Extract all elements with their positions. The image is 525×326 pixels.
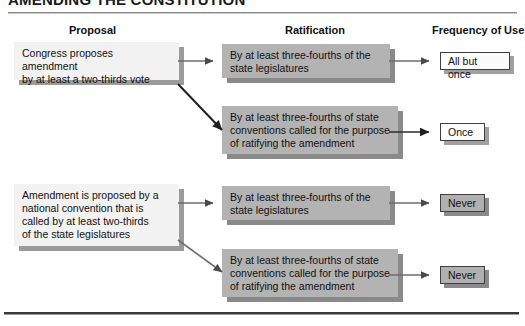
frequency-text-never-1: Never [440, 194, 485, 213]
column-header-frequency: Frequency of Use [432, 24, 524, 36]
ratification-text-legislatures-1: By at least three-fourths of the state l… [222, 44, 390, 79]
ratification-box-conventions-2: By at least three-fourths of state conve… [222, 249, 398, 297]
arrow-congress-to-conventions [178, 84, 222, 130]
proposal-text-congress: Congress proposes amendment by at least … [14, 42, 179, 90]
column-header-ratification: Ratification [285, 24, 345, 36]
ratification-box-legislatures-2: By at least three-fourths of the state l… [222, 186, 390, 220]
footer-divider-bottom [4, 312, 519, 315]
ratification-box-legislatures-1: By at least three-fourths of the state l… [222, 44, 390, 78]
frequency-text-once: Once [440, 123, 485, 142]
frequency-text-all-but-once: All but once [440, 52, 510, 84]
frequency-box-all-but-once: All but once [440, 52, 510, 70]
frequency-box-once: Once [440, 123, 485, 141]
frequency-box-never-2: Never [440, 266, 485, 284]
amendment-process-diagram: AMENDING THE CONSTITUTION Proposal Ratif… [0, 0, 525, 326]
proposal-text-national-convention: Amendment is proposed by a national conv… [14, 184, 179, 245]
header-divider-top [8, 12, 517, 14]
frequency-text-never-2: Never [440, 266, 485, 285]
frequency-box-never-1: Never [440, 194, 485, 212]
arrow-convention-to-conventions [178, 240, 222, 272]
proposal-box-national-convention: Amendment is proposed by a national conv… [14, 184, 179, 246]
ratification-text-legislatures-2: By at least three-fourths of the state l… [222, 186, 390, 221]
ratification-text-conventions-2: By at least three-fourths of state conve… [222, 249, 398, 297]
column-header-proposal: Proposal [69, 24, 116, 36]
ratification-box-conventions-1: By at least three-fourths of state conve… [222, 106, 398, 154]
proposal-box-congress: Congress proposes amendment by at least … [14, 42, 179, 80]
page-title: AMENDING THE CONSTITUTION [8, 0, 246, 8]
ratification-text-conventions-1: By at least three-fourths of state conve… [222, 106, 398, 154]
